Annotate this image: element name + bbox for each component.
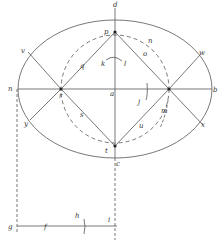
label-c: c [116,160,120,168]
label-s: s [80,111,84,119]
label-a: a [110,90,114,98]
diagonal-left-lower [30,89,61,120]
arc-j [146,83,147,100]
label-v: v [21,47,25,55]
label-d: d [113,1,118,9]
label-k: k [101,60,105,68]
label-o: o [143,50,147,58]
label-p: p [104,28,109,36]
label-m: m [161,107,168,115]
geometric-diagram: d p n o v q k l w n r a j b y s m u x t … [0,0,224,245]
label-g: g [8,223,13,231]
diagonal-w-right [169,55,200,89]
point-m [167,87,170,90]
point-r [59,87,62,90]
label-t: t [105,147,108,155]
label-x: x [201,121,205,129]
point-p [113,30,116,33]
diagonal-right-lower [169,89,203,125]
tick-h [84,219,85,234]
label-f: f [43,223,48,231]
label-b: b [213,86,218,94]
label-i: i [108,216,110,224]
label-q: q [80,62,85,70]
label-l: l [124,60,126,68]
point-t [113,144,116,147]
arc-k [106,57,122,61]
label-n: n [148,37,153,45]
diagonal-v-to-y-left [28,52,61,89]
label-r: r [59,92,63,100]
label-j: j [136,98,141,106]
label-h: h [75,212,80,220]
label-u: u [139,122,144,130]
label-w: w [199,49,205,57]
label-y: y [23,120,29,128]
label-n-left: n [8,85,13,93]
